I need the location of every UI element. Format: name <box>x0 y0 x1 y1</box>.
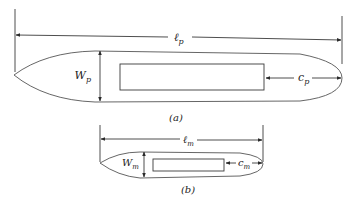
figure-b-model: ℓm Wm cm (b) <box>100 125 263 195</box>
figure-a-prototype: ℓp Wp cp (a) <box>14 9 342 123</box>
length-label-a: ℓp <box>174 31 184 46</box>
length-arrow-left-a <box>16 35 168 37</box>
diagram-canvas: ℓp Wp cp (a) ℓm Wm cm <box>0 0 360 204</box>
length-label-b: ℓm <box>183 134 194 148</box>
length-arrow-right-a <box>192 37 341 40</box>
hull-outline-a <box>14 51 342 102</box>
caption-a: (a) <box>169 112 183 123</box>
caption-b: (b) <box>181 184 195 195</box>
